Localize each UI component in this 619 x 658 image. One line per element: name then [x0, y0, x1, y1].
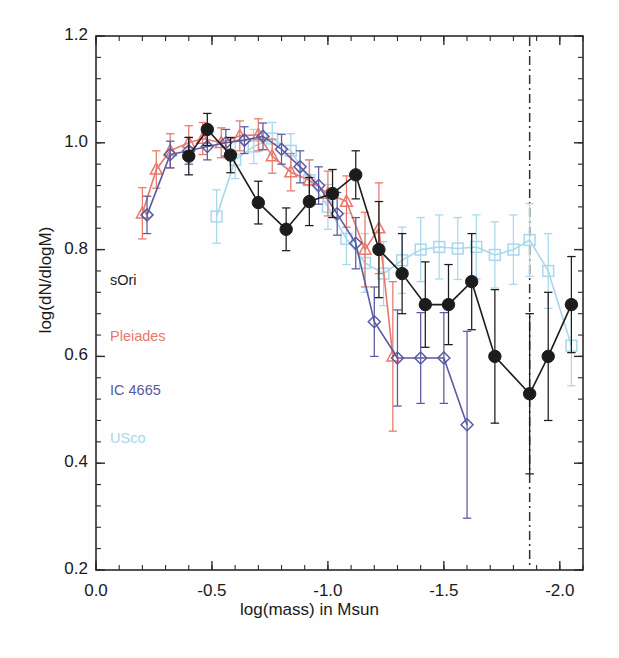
y-tick-label: 0.2 [40, 559, 88, 579]
legend-item-ic-4665: IC 4665 [110, 382, 161, 398]
y-tick-label: 1.2 [40, 25, 88, 45]
data-point-sori [183, 150, 195, 162]
error-bars-usco [212, 123, 575, 386]
legend-item-pleiades: Pleiades [110, 328, 166, 344]
y-tick-label: 0.6 [40, 345, 88, 365]
x-axis-title: log(mass) in Msun [0, 600, 619, 620]
data-point-sori [201, 123, 213, 135]
chart-canvas [0, 0, 619, 658]
series-sori [183, 113, 578, 473]
markers-usco [211, 133, 577, 351]
data-point-sori [419, 298, 431, 310]
data-point-sori [326, 187, 338, 199]
series-usco [211, 123, 577, 386]
series-line-usco [217, 139, 572, 346]
x-tick-label: -0.5 [182, 581, 242, 601]
figure-container: log(mass) in Msun log(dN/dlogM) 0.0-0.5-… [0, 0, 619, 658]
legend-item-usco: USco [110, 430, 145, 446]
data-point-sori [303, 195, 315, 207]
series-pleiades [136, 119, 398, 431]
data-point-sori [224, 149, 236, 161]
data-point-sori [350, 169, 362, 181]
data-point-sori [373, 243, 385, 255]
x-tick-label: 0.0 [66, 581, 126, 601]
markers-sori [183, 123, 578, 400]
data-point-sori [442, 298, 454, 310]
legend-item-sori: sOri [110, 272, 137, 288]
data-point-sori [565, 298, 577, 310]
y-tick-label: 1.0 [40, 132, 88, 152]
data-point-sori [523, 388, 535, 400]
plot-frame [96, 36, 583, 570]
y-tick-label: 0.4 [40, 452, 88, 472]
axis-ticks [96, 36, 583, 570]
series-ic-4665 [141, 123, 473, 518]
data-point-sori [252, 196, 264, 208]
x-tick-label: -2.0 [530, 581, 590, 601]
y-axis-title: log(dN/dlogM) [36, 130, 56, 430]
data-point-sori [542, 350, 554, 362]
y-tick-label: 0.8 [40, 239, 88, 259]
data-point-sori [396, 267, 408, 279]
data-point-sori [280, 223, 292, 235]
x-tick-label: -1.5 [414, 581, 474, 601]
x-tick-label: -1.0 [298, 581, 358, 601]
error-bars-pleiades [138, 119, 397, 431]
data-point-sori [465, 275, 477, 287]
data-point-sori [489, 350, 501, 362]
error-bars-ic-4665 [143, 123, 471, 518]
error-bars-sori [185, 113, 576, 473]
